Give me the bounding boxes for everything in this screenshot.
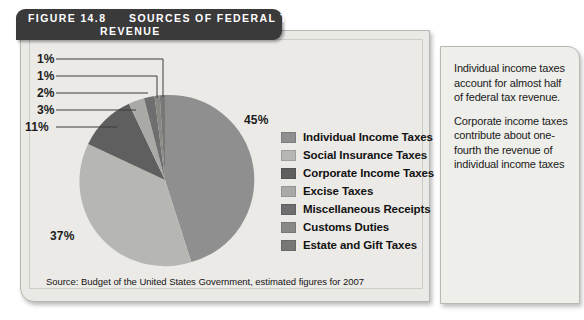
- legend-item-customs-duties: Customs Duties: [281, 218, 431, 236]
- legend-item-individual-income-taxes: Individual Income Taxes: [281, 128, 431, 146]
- leader-line-customs-duties: [56, 76, 157, 98]
- figure-source-text: Source: Budget of the United States Gove…: [46, 276, 364, 287]
- legend-item-label: Estate and Gift Taxes: [303, 239, 417, 251]
- pie-label-45-percent: 45%: [244, 113, 269, 127]
- pie-label-37-percent: 37%: [50, 229, 75, 243]
- legend-item-excise-taxes: Excise Taxes: [281, 182, 431, 200]
- legend-swatch-icon: [281, 186, 296, 197]
- chart-legend: Individual Income Taxes Social Insurance…: [281, 128, 431, 254]
- pie-label-1-percent-customs: 1%: [37, 69, 55, 83]
- legend-item-corporate-income-taxes: Corporate Income Taxes: [281, 164, 431, 182]
- legend-item-miscellaneous-receipts: Miscellaneous Receipts: [281, 200, 431, 218]
- side-note-box: Individual income taxes account for almo…: [440, 46, 580, 304]
- figure-header-bar: FIGURE 14.8 SOURCES OF FEDERAL TAX REVEN…: [16, 9, 282, 40]
- legend-item-label: Social Insurance Taxes: [303, 149, 427, 161]
- figure-container: 45% 37% 11% 3% 2% 1% 1% Individual Incom…: [0, 0, 584, 320]
- legend-item-estate-and-gift-taxes: Estate and Gift Taxes: [281, 236, 431, 254]
- legend-item-label: Excise Taxes: [303, 185, 373, 197]
- figure-header-line-1: FIGURE 14.8 SOURCES OF FEDERAL TAX: [16, 12, 282, 25]
- figure-title-line-1: SOURCES OF FEDERAL TAX: [129, 12, 305, 24]
- legend-item-label: Corporate Income Taxes: [303, 167, 434, 179]
- legend-swatch-icon: [281, 168, 296, 179]
- pie-label-3-percent: 3%: [37, 103, 55, 117]
- figure-plot-area: 45% 37% 11% 3% 2% 1% 1% Individual Incom…: [29, 39, 423, 289]
- pie-label-11-percent: 11%: [25, 120, 49, 134]
- side-note-paragraph-1: Individual income taxes account for almo…: [454, 61, 568, 105]
- figure-source-note: Source: Budget of the United States Gove…: [39, 272, 431, 290]
- legend-swatch-icon: [281, 132, 296, 143]
- figure-title-line-2: REVENUE: [100, 25, 161, 37]
- legend-swatch-icon: [281, 150, 296, 161]
- legend-item-label: Miscellaneous Receipts: [303, 203, 431, 215]
- legend-item-label: Individual Income Taxes: [303, 131, 433, 143]
- figure-title-line-2-wrap: REVENUE: [16, 25, 282, 38]
- legend-item-social-insurance-taxes: Social Insurance Taxes: [281, 146, 431, 164]
- legend-swatch-icon: [281, 240, 296, 251]
- leader-line-estate-gift: [56, 59, 163, 97]
- figure-main-panel: 45% 37% 11% 3% 2% 1% 1% Individual Incom…: [20, 30, 430, 302]
- side-note-paragraph-2: Corporate income taxes contribute about …: [454, 114, 568, 172]
- pie-label-2-percent: 2%: [37, 86, 55, 100]
- legend-swatch-icon: [281, 204, 296, 215]
- figure-number-label: FIGURE 14.8: [28, 12, 106, 24]
- legend-item-label: Customs Duties: [303, 221, 389, 233]
- legend-swatch-icon: [281, 222, 296, 233]
- pie-label-1-percent-estate: 1%: [37, 52, 55, 66]
